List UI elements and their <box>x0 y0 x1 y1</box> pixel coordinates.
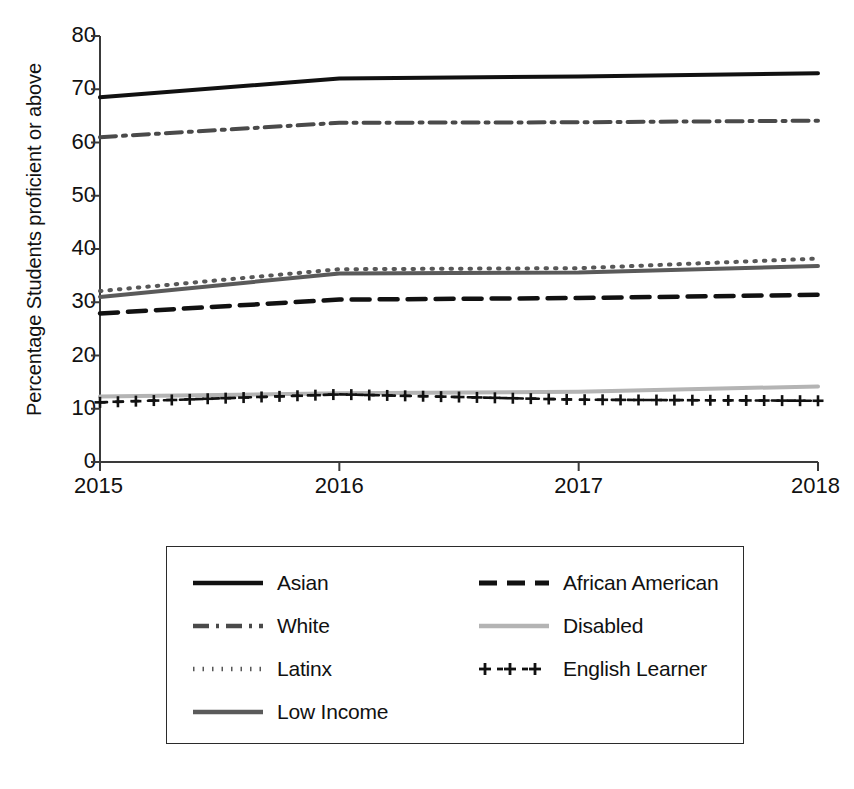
legend-item-low-income[interactable]: Low Income <box>191 700 477 724</box>
legend-item-african-american[interactable]: African American <box>477 571 725 595</box>
legend-swatch-low-income-icon <box>191 703 265 721</box>
legend-label: English Learner <box>563 657 707 681</box>
legend: AsianAfrican AmericanWhiteDisabledLatinx… <box>166 546 744 744</box>
legend-swatch-disabled-icon <box>477 617 551 635</box>
legend-label: White <box>277 614 330 638</box>
line-chart: Percentage Students proficient or above … <box>0 0 854 789</box>
legend-swatch-english-learner-icon <box>477 660 551 678</box>
legend-item-asian[interactable]: Asian <box>191 571 477 595</box>
x-tick-label: 2016 <box>315 475 364 497</box>
legend-swatch-white-icon <box>191 617 265 635</box>
x-tick-label: 2015 <box>74 475 123 497</box>
x-tick-label: 2018 <box>791 475 840 497</box>
legend-label: Asian <box>277 571 329 595</box>
legend-swatch-latinx-icon <box>191 660 265 678</box>
series-line-asian <box>100 73 818 97</box>
legend-label: African American <box>563 571 719 595</box>
legend-label: Disabled <box>563 614 643 638</box>
legend-item-white[interactable]: White <box>191 614 477 638</box>
series-line-white <box>100 121 818 138</box>
legend-label: Low Income <box>277 700 388 724</box>
series-line-low-income <box>100 266 818 297</box>
legend-swatch-asian-icon <box>191 574 265 592</box>
x-tick-label: 2017 <box>554 475 603 497</box>
legend-swatch-african-american-icon <box>477 574 551 592</box>
series-line-african-american <box>100 295 818 314</box>
legend-item-english-learner[interactable]: English Learner <box>477 657 725 681</box>
series-markers-english-learner <box>95 389 824 408</box>
legend-label: Latinx <box>277 657 332 681</box>
legend-item-disabled[interactable]: Disabled <box>477 614 725 638</box>
plot-area <box>0 0 854 530</box>
legend-item-latinx[interactable]: Latinx <box>191 657 477 681</box>
